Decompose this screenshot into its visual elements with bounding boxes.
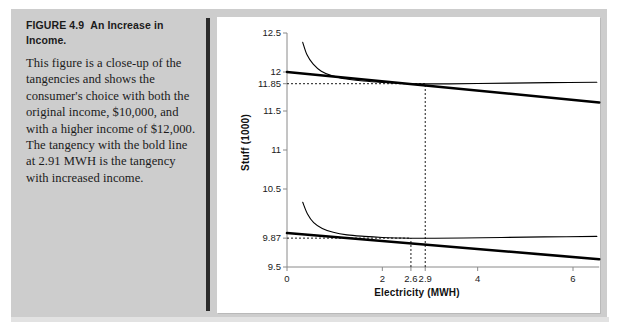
figure-number: FIGURE 4.9 <box>26 19 84 31</box>
indifference-curve-original-income <box>303 202 597 238</box>
figure-caption-body: This figure is a close-up of the tangenc… <box>26 55 198 186</box>
figure-shadow <box>11 317 609 322</box>
figure-title: FIGURE 4.9 An Increase in Income. <box>26 18 198 48</box>
chart-svg <box>217 17 600 313</box>
figure-caption: FIGURE 4.9 An Increase in Income. This f… <box>26 18 198 188</box>
series-layer <box>287 42 599 259</box>
axes-layer <box>283 33 599 271</box>
chart-panel: Stuff (1000) Electricity (MWH) 12.51211.… <box>217 17 600 313</box>
figure-root: FIGURE 4.9 An Increase in Income. This f… <box>0 0 618 329</box>
chart-plot-area: Stuff (1000) Electricity (MWH) 12.51211.… <box>217 17 600 313</box>
vertical-divider-bar <box>206 18 210 311</box>
